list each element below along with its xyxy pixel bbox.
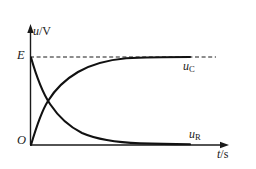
ur-curve-label: uR	[189, 128, 201, 142]
uc-curve	[31, 57, 190, 145]
ur-subscript: R	[195, 132, 201, 142]
uc-subscript: C	[189, 64, 195, 74]
level-label-e: E	[17, 49, 25, 62]
y-axis-label: u/V	[33, 25, 51, 37]
ur-curve	[31, 58, 190, 145]
y-axis-unit: /V	[39, 24, 51, 38]
uc-curve-label: uC	[183, 60, 195, 74]
x-axis-unit: /s	[220, 147, 228, 161]
figure-canvas: u/V t/s E O uC uR	[0, 0, 256, 169]
origin-label: O	[17, 134, 26, 147]
x-axis-label: t/s	[217, 148, 228, 160]
